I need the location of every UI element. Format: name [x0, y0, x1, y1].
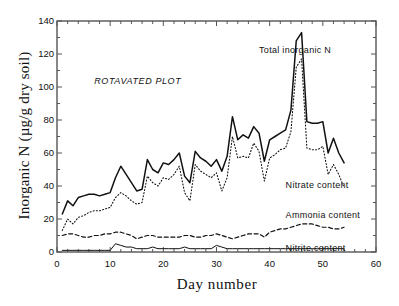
y-tick-label: 0 [28, 246, 54, 257]
x-axis-title: Day number [57, 276, 377, 293]
series-line-2 [62, 224, 344, 239]
x-tick-label: 30 [205, 258, 229, 269]
series-label-nitrite-content: Nitrite content [286, 243, 346, 253]
y-tick-label: 20 [28, 213, 54, 224]
series-label-ammonia-content: Ammonia content [286, 210, 361, 220]
chart-figure: Inorganic N (µg/g dry soil) Day number 0… [0, 0, 399, 306]
x-tick-label: 50 [311, 258, 335, 269]
plot-annotation-rotavated: ROTAVATED PLOT [94, 76, 181, 86]
y-tick-label: 100 [28, 81, 54, 92]
x-tick-label: 0 [45, 258, 69, 269]
y-tick-label: 120 [28, 48, 54, 59]
x-tick-label: 60 [364, 258, 388, 269]
series-label-nitrate-content: Nitrate content [286, 180, 349, 190]
x-tick-label: 20 [151, 258, 175, 269]
y-tick-label: 40 [28, 180, 54, 191]
y-tick-label: 80 [28, 114, 54, 125]
x-axis-tick-labels: 0102030405060 [0, 258, 399, 274]
x-tick-label: 40 [258, 258, 282, 269]
y-tick-label: 140 [28, 15, 54, 26]
series-label-total-inorganic-n: Total inorganic N [259, 45, 331, 55]
y-tick-label: 60 [28, 147, 54, 158]
x-tick-label: 10 [98, 258, 122, 269]
